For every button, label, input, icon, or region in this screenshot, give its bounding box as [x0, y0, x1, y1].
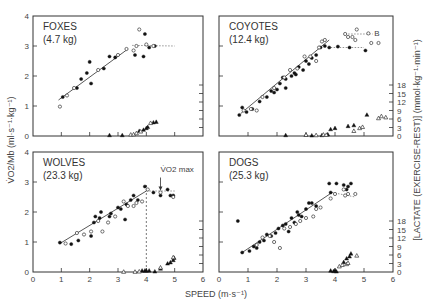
panel-mass: (12.4 kg) [229, 34, 268, 45]
vo2-point-open [242, 109, 245, 112]
lactate-tick-label: 15 [397, 90, 406, 99]
vo2-point-open [283, 227, 286, 230]
vo2-point-filled [108, 55, 111, 58]
vo2-point-open [299, 219, 302, 222]
vo2-point-filled [284, 222, 287, 225]
x-tick-label: 0 [31, 275, 36, 284]
vo2-point-filled [236, 219, 239, 222]
vo2-point-filled [123, 218, 126, 221]
y-tick-label: 1 [25, 238, 30, 247]
vo2-point-filled [241, 251, 244, 254]
vo2-point-filled [290, 74, 293, 77]
vo2-point-open [72, 86, 75, 89]
vo2-point-filled [248, 249, 251, 252]
vo2-point-open [114, 215, 117, 218]
lactate-point-open [352, 129, 356, 133]
vo2-point-open [377, 41, 380, 44]
lactate-point-filled [154, 120, 158, 124]
vo2-point-filled [342, 183, 345, 186]
vo2-point-filled [114, 56, 117, 59]
lactate-tick-label: 0 [397, 268, 402, 277]
y-axis-label: V̇O2/Mb (ml·s⁻¹·kg⁻¹) [6, 97, 16, 184]
lactate-tick-label: 18 [397, 217, 406, 226]
vo2-point-filled [287, 230, 290, 233]
vo2-point-open [159, 191, 162, 194]
vo2-point-filled [143, 32, 146, 35]
vo2-point-open [323, 38, 326, 41]
vo2-point-filled [258, 240, 261, 243]
lactate-point-filled [108, 133, 112, 137]
y-tick-label: 2 [25, 208, 30, 217]
vo2-point-filled [129, 198, 132, 201]
vo2-point-open [138, 28, 141, 31]
lactate-point-open [304, 133, 308, 137]
x-tick-label: 3 [116, 275, 121, 284]
panel-wolves: 012345601234WOLVES(23.3 kg)V̇O2 max [25, 148, 206, 284]
x-tick-label: 2 [87, 275, 92, 284]
vo2-point-filled [152, 191, 155, 194]
lactate-tick-label: 3 [397, 260, 402, 269]
vo2-point-open [261, 236, 264, 239]
vo2-point-filled [348, 46, 351, 49]
regression-line [60, 191, 146, 244]
vo2-point-filled [108, 215, 111, 218]
lactate-tick-label: 12 [397, 98, 406, 107]
vo2-point-filled [99, 210, 102, 213]
lactate-point-open [137, 269, 141, 273]
vo2-point-filled [238, 113, 241, 116]
vo2-point-open [315, 207, 318, 210]
x-tick-label: 5 [362, 275, 367, 284]
vo2-point-open [317, 46, 320, 49]
vo2-point-filled [284, 86, 287, 89]
vo2-point-filled [258, 100, 261, 103]
lactate-point-open [384, 115, 388, 119]
vo2-point-open [140, 200, 143, 203]
vo2-point-open [89, 230, 92, 233]
vo2-point-open [319, 206, 322, 209]
vo2-point-open [309, 55, 312, 58]
lactate-point-filled [365, 113, 369, 117]
vo2-point-open [355, 28, 358, 31]
vo2-point-filled [85, 71, 88, 74]
vo2-point-filled [265, 95, 268, 98]
vo2-point-open [122, 200, 125, 203]
vo2-point-open [65, 94, 68, 97]
panel-title: FOXES [43, 21, 77, 32]
lactate-point-open [133, 270, 137, 274]
vo2-point-open [367, 32, 370, 35]
vo2-point-open [346, 192, 349, 195]
vo2-point-open [106, 221, 109, 224]
vo2-point-filled [89, 82, 92, 85]
lactate-point-filled [147, 269, 151, 273]
vo2-point-filled [273, 91, 276, 94]
vo2-point-open [75, 231, 78, 234]
y-tick-label: 0 [25, 132, 30, 141]
vo2-point-open [64, 242, 67, 245]
vo2-point-filled [88, 60, 91, 63]
lactate-tick-label: 9 [397, 243, 402, 252]
lactate-point-open [122, 270, 126, 274]
vo2-point-filled [143, 185, 146, 188]
vo2-point-open [249, 107, 252, 110]
panel-dogs: 01234560369121518DOGS(25.3 kg) [217, 152, 407, 284]
vo2-point-open [255, 243, 258, 246]
vo2-point-open [296, 67, 299, 70]
lactate-point-open [159, 265, 163, 269]
vo2-point-open [342, 188, 345, 191]
vo2-point-open [126, 204, 129, 207]
lactate-tick-label: 15 [397, 226, 406, 235]
lactate-point-filled [352, 123, 356, 127]
x-axis-label: SPEED (m·s⁻¹) [185, 289, 247, 299]
vo2-point-open [97, 68, 100, 71]
vo2-point-filled [304, 59, 307, 62]
vo2-point-filled [58, 241, 61, 244]
vo2-point-open [132, 204, 135, 207]
lactate-point-open [355, 254, 359, 258]
x-tick-label: 1 [59, 275, 64, 284]
plateau-label: B [374, 29, 379, 38]
vo2-point-open [278, 246, 281, 249]
vo2-point-open [303, 55, 306, 58]
vo2-point-open [288, 68, 291, 71]
x-tick-label: 6 [201, 275, 206, 284]
y-tick-label: 3 [25, 178, 30, 187]
